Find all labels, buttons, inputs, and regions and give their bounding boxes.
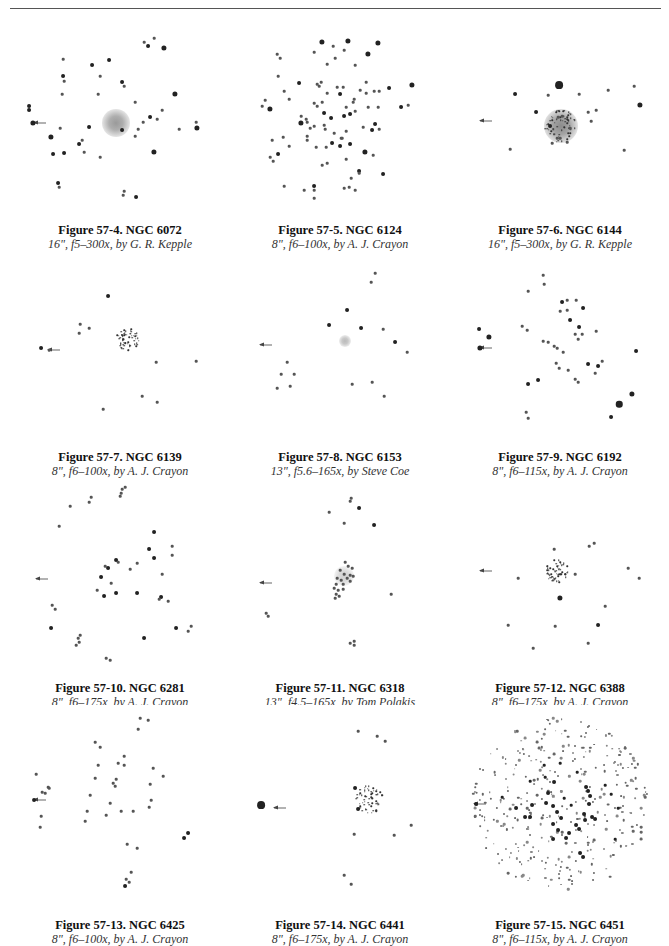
star <box>306 135 309 138</box>
star <box>587 802 591 806</box>
cluster-star <box>547 573 549 575</box>
star <box>588 794 592 798</box>
star <box>349 580 352 583</box>
cluster-star <box>561 834 563 836</box>
cluster-star <box>371 798 373 800</box>
cluster-star <box>536 730 538 732</box>
star <box>303 189 306 192</box>
star <box>365 92 368 95</box>
star <box>588 545 591 548</box>
caption: Figure 57-13. NGC 6425 8", f6–100x, by A… <box>0 918 240 946</box>
star <box>578 93 581 96</box>
star <box>564 836 568 840</box>
caption: Figure 57-15. NGC 6451 8", f6–115x, by A… <box>440 918 669 946</box>
star <box>348 186 351 189</box>
figure-credit: 16", f5–300x, by G. R. Kepple <box>440 237 669 251</box>
cluster-star <box>534 856 536 858</box>
cluster-star <box>532 847 534 849</box>
star <box>334 597 337 600</box>
sketch-ngc-6425 <box>20 705 220 900</box>
star <box>399 105 403 109</box>
cluster-star <box>610 735 612 737</box>
star <box>627 567 630 570</box>
figure-title: Figure 57-9. NGC 6192 <box>440 450 669 464</box>
cluster-star <box>557 126 559 128</box>
cluster-star <box>135 336 137 338</box>
cluster-star <box>514 730 516 732</box>
star <box>152 530 156 534</box>
star <box>338 144 342 148</box>
cluster-star <box>597 811 600 814</box>
cluster-star <box>355 798 357 800</box>
cluster-star <box>367 812 369 814</box>
cluster-star <box>479 826 481 828</box>
star <box>353 833 356 836</box>
sketch-ngc-6124 <box>240 30 440 200</box>
star <box>88 501 91 504</box>
star <box>349 500 352 503</box>
cluster-star <box>126 334 128 336</box>
cluster-star <box>557 775 559 777</box>
cluster-star <box>507 872 510 875</box>
star <box>638 577 641 580</box>
cluster-star <box>587 844 589 846</box>
star <box>532 647 535 650</box>
star <box>362 126 365 129</box>
star <box>32 798 36 802</box>
star <box>365 51 370 56</box>
cluster-star <box>569 868 571 870</box>
star <box>153 37 156 40</box>
cluster-star <box>486 837 488 839</box>
star <box>313 51 316 54</box>
cluster-star <box>566 808 568 810</box>
star <box>601 360 604 363</box>
star <box>149 783 152 786</box>
star <box>124 486 127 489</box>
sketch-ngc-6318 <box>240 480 440 670</box>
cluster-star <box>505 848 507 850</box>
cluster-star <box>572 752 574 754</box>
star <box>187 630 190 633</box>
star <box>407 104 410 107</box>
star <box>186 831 190 835</box>
star <box>121 488 124 491</box>
star <box>358 172 361 175</box>
cluster-star <box>626 784 629 787</box>
cluster-star <box>556 118 558 120</box>
cluster-star <box>592 879 594 881</box>
cluster-star <box>533 779 536 782</box>
cluster-star <box>621 810 623 812</box>
star <box>306 139 309 142</box>
cluster-star <box>524 737 527 740</box>
star <box>69 505 72 508</box>
star <box>62 151 66 155</box>
cluster-star <box>482 769 484 771</box>
cluster-star <box>507 790 509 792</box>
cluster-star <box>533 784 535 786</box>
star <box>340 579 343 582</box>
cluster-star <box>620 845 622 847</box>
star <box>102 408 105 411</box>
cluster-star <box>618 754 620 756</box>
cluster-star <box>484 816 486 818</box>
cluster-star <box>568 119 570 121</box>
cluster-star <box>568 856 571 859</box>
star <box>134 195 138 199</box>
star <box>349 642 352 645</box>
cluster-star <box>507 816 509 818</box>
cluster-star <box>364 791 366 793</box>
cluster-star <box>558 560 560 562</box>
cluster-star <box>359 803 361 805</box>
star <box>372 523 376 527</box>
cluster-star <box>616 814 619 817</box>
cluster-star <box>621 767 623 769</box>
star <box>340 137 343 140</box>
star <box>574 378 577 381</box>
cluster-star <box>512 827 514 829</box>
figure-57-10: Figure 57-10. NGC 6281 8", f6–175x, by A… <box>20 480 220 670</box>
star <box>372 154 375 157</box>
cluster-star <box>619 806 622 809</box>
star <box>106 294 110 298</box>
cluster-star <box>572 760 574 762</box>
star <box>354 110 357 113</box>
